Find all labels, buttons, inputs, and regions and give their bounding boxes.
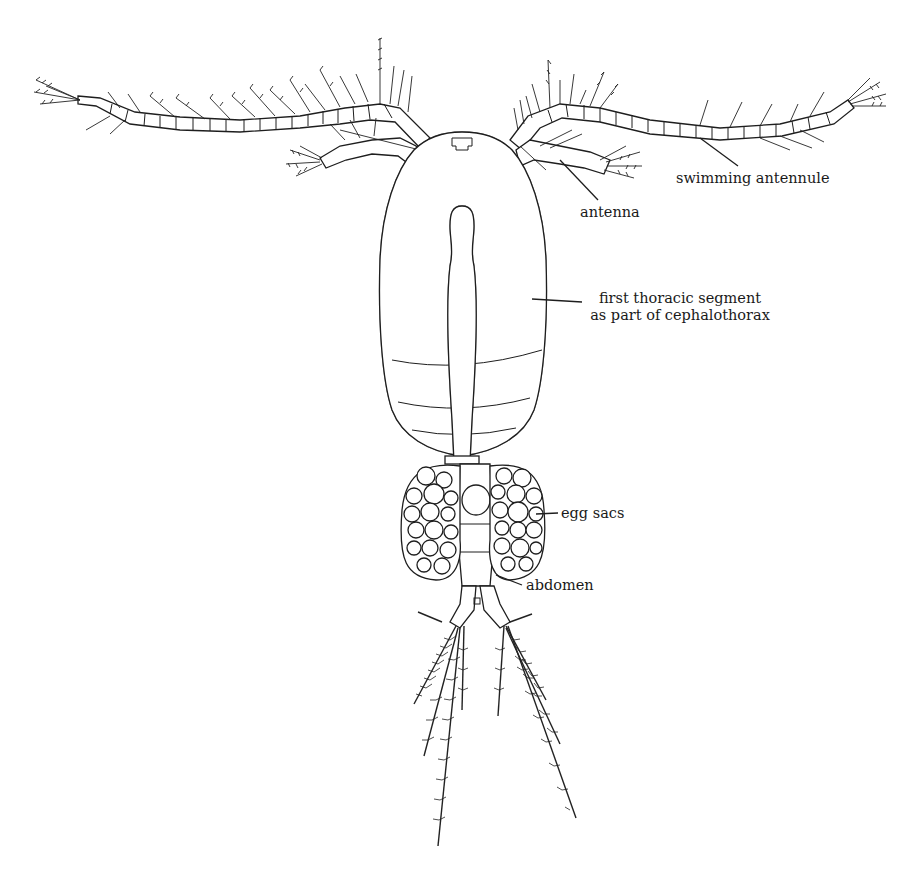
label-first-thoracic-segment: first thoracic segment as part of cephal… — [588, 290, 772, 324]
label-first-thoracic-line1: first thoracic segment — [588, 290, 772, 307]
cephalothorax — [380, 132, 547, 462]
label-first-thoracic-line2: as part of cephalothorax — [588, 307, 772, 324]
label-swimming-antennule: swimming antennule — [676, 170, 829, 187]
left-antennule — [34, 38, 430, 176]
caudal-setae — [414, 612, 576, 846]
leader-swimming-antennule — [700, 138, 738, 166]
label-antenna: antenna — [580, 204, 640, 221]
label-abdomen: abdomen — [526, 577, 594, 594]
label-egg-sacs: egg sacs — [561, 505, 624, 522]
copepod-illustration — [0, 0, 905, 870]
copepod-diagram: swimming antennule antenna first thoraci… — [0, 0, 905, 870]
right-antennule — [510, 60, 886, 178]
caudal-setae-barbs — [416, 635, 570, 820]
